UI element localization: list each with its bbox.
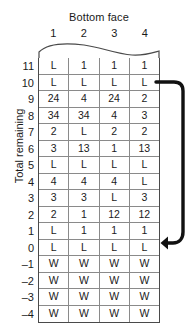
table-cell: 12 [100,207,130,223]
table-cell: 4 [100,108,130,124]
table-cell: L [69,75,99,91]
table-cell: L [39,223,69,239]
table-cell: 1 [100,58,130,74]
table-cell: W [39,306,69,323]
column-header: 3 [99,26,130,40]
table-cell: W [130,306,159,323]
table-cell: W [39,273,69,289]
table-row: 2L22 [39,124,159,141]
table-cell: W [100,289,130,305]
row-label: 2 [14,207,36,224]
table-cell: L [39,157,69,173]
table-cell: 3 [69,190,99,206]
row-label: 7 [14,124,36,141]
table-cell: 2 [100,124,130,140]
table-cell: L [130,174,159,190]
table-cell: W [69,273,99,289]
column-axis-title: Bottom face [38,11,160,23]
column-header: 4 [130,26,161,40]
table-row: WWWW [39,256,159,273]
row-label: –1 [14,256,36,273]
table-cell: 2 [39,124,69,140]
table-cell: 2 [130,124,159,140]
data-grid: L111LLLL2442423434432L22313113LLLL444L33… [38,58,160,323]
table-cell: L [100,240,130,256]
column-header: 1 [38,26,69,40]
diagram-canvas: Bottom face 1234 Total remaining 1110987… [0,0,192,335]
row-label: 11 [14,58,36,75]
table-cell: L [39,58,69,74]
table-cell: L [69,157,99,173]
table-cell: L [130,75,159,91]
table-cell: W [69,306,99,323]
table-cell: W [130,273,159,289]
row-label: 4 [14,174,36,191]
row-label: 5 [14,157,36,174]
table-cell: W [39,289,69,305]
table-cell: W [130,289,159,305]
table-cell: 24 [39,91,69,107]
table-cell: 34 [39,108,69,124]
table-cell: L [69,240,99,256]
table-cell: W [69,256,99,272]
table-row: L111 [39,58,159,75]
table-cell: 2 [39,207,69,223]
row-label: 3 [14,190,36,207]
table-cell: 1 [100,223,130,239]
row-label: –4 [14,306,36,323]
table-cell: W [100,306,130,323]
table-row: LLLL [39,240,159,257]
table-cell: 13 [69,141,99,157]
table-cell: 12 [130,207,159,223]
table-cell: 1 [130,223,159,239]
table-cell: 1 [130,58,159,74]
table-cell: L [69,124,99,140]
row-label: 6 [14,141,36,158]
table-cell: L [100,190,130,206]
table-row: 343443 [39,108,159,125]
table-cell: 4 [69,91,99,107]
table-cell: L [100,157,130,173]
table-row: 313113 [39,141,159,158]
row-label-column: 11109876543210–1–2–3–4 [14,58,36,322]
table-cell: W [69,289,99,305]
table-cell: L [130,240,159,256]
column-header-row: 1234 [38,26,160,40]
table-cell: 34 [69,108,99,124]
table-cell: 3 [130,190,159,206]
row-label: –2 [14,273,36,290]
table-cell: 1 [69,223,99,239]
table-row: 444L [39,174,159,191]
table-cell: 4 [69,174,99,190]
table-cell: L [39,240,69,256]
table-cell: 4 [39,174,69,190]
table-cell: 3 [39,190,69,206]
torn-edge-wave [38,42,160,59]
table-cell: 13 [130,141,159,157]
table-row: 33L3 [39,190,159,207]
table-cell: L [130,157,159,173]
row-label: 10 [14,75,36,92]
table-cell: 3 [39,141,69,157]
table-cell: W [100,273,130,289]
table-cell: 2 [130,91,159,107]
table-row: WWWW [39,289,159,306]
table-cell: 3 [130,108,159,124]
table-row: 244242 [39,91,159,108]
table-cell: W [130,256,159,272]
table-cell: 4 [100,174,130,190]
table-cell: 1 [100,141,130,157]
table-row: WWWW [39,273,159,290]
table-row: LLLL [39,75,159,92]
row-label: 8 [14,108,36,125]
column-header: 2 [69,26,100,40]
table-row: L111 [39,223,159,240]
table-row: WWWW [39,306,159,323]
row-label: 0 [14,240,36,257]
table-cell: 1 [69,58,99,74]
table-cell: L [100,75,130,91]
table-cell: W [39,256,69,272]
row-label: –3 [14,289,36,306]
table-row: 211212 [39,207,159,224]
table-cell: 24 [100,91,130,107]
